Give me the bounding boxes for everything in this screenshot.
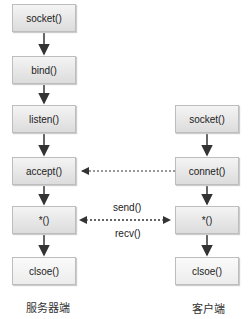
step-label: connet() (189, 166, 226, 177)
step-label: bind() (31, 65, 57, 76)
step-label: clsoe() (192, 266, 222, 277)
step-label: socket() (189, 114, 225, 125)
server-close-box: clsoe() (12, 257, 76, 285)
recv-label: recv() (115, 228, 141, 239)
server-bind-box: bind() (12, 56, 76, 84)
step-label: *() (202, 215, 213, 226)
server-caption: 服务器端 (26, 299, 70, 315)
client-socket-box: socket() (175, 105, 239, 133)
server-io-box: *() (12, 206, 76, 234)
client-close-box: clsoe() (175, 257, 239, 285)
client-io-box: *() (175, 206, 239, 234)
client-connect-box: connet() (175, 157, 239, 185)
send-label: send() (113, 202, 141, 213)
server-accept-box: accept() (12, 157, 76, 185)
step-label: *() (39, 215, 50, 226)
client-caption: 客户端 (192, 300, 225, 316)
server-socket-box: socket() (12, 4, 76, 32)
step-label: listen() (29, 114, 59, 125)
step-label: accept() (26, 166, 62, 177)
step-label: clsoe() (29, 266, 59, 277)
server-listen-box: listen() (12, 105, 76, 133)
step-label: socket() (26, 13, 62, 24)
